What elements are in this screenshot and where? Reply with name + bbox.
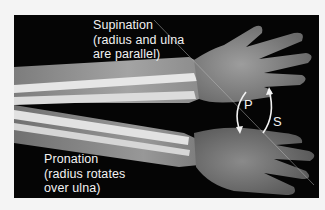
pronation-desc-line1: (radius rotates xyxy=(44,167,125,182)
supination-desc-line1: (radius and ulna xyxy=(93,33,184,48)
arrow-label-s: S xyxy=(273,114,282,129)
pronation-desc-line2: over ulna) xyxy=(44,181,125,196)
supination-title: Supination xyxy=(93,18,184,33)
supinated-hand-shape xyxy=(194,26,312,103)
supinated-hand xyxy=(194,26,312,103)
figure-panel: Supination (radius and ulna are parallel… xyxy=(14,15,319,198)
pronated-hand-shape xyxy=(194,128,314,195)
arrow-label-p: P xyxy=(244,97,253,112)
pronation-label: Pronation (radius rotates over ulna) xyxy=(44,152,125,196)
supinated-forearm xyxy=(14,57,204,105)
pronation-title: Pronation xyxy=(44,152,125,167)
supination-desc-line2: are parallel) xyxy=(93,47,184,62)
supination-label: Supination (radius and ulna are parallel… xyxy=(93,18,184,62)
pronated-hand xyxy=(194,128,314,195)
